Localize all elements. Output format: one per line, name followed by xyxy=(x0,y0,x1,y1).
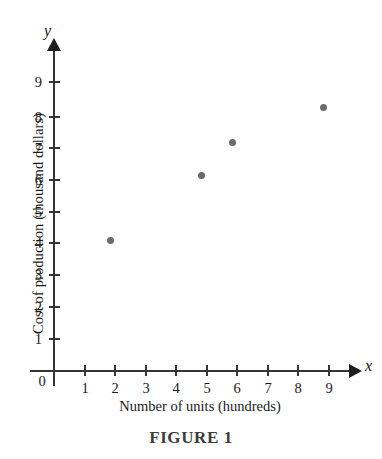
y-tick-7 xyxy=(49,147,60,149)
x-axis-line xyxy=(30,370,355,372)
x-tick-label-9: 9 xyxy=(321,381,337,396)
x-tick-label-8: 8 xyxy=(290,381,306,396)
y-tick-3 xyxy=(49,274,60,276)
x-tick-label-1: 1 xyxy=(77,381,93,396)
y-tick-4 xyxy=(49,242,60,244)
x-tick-5 xyxy=(206,365,208,376)
y-tick-2 xyxy=(49,306,60,308)
x-tick-label-6: 6 xyxy=(229,381,245,396)
x-tick-label-2: 2 xyxy=(107,381,123,396)
data-point xyxy=(107,237,114,244)
x-tick-4 xyxy=(175,365,177,376)
data-point xyxy=(320,104,327,111)
y-tick-1 xyxy=(49,338,60,340)
x-tick-6 xyxy=(236,365,238,376)
y-axis-label: Cost of production (thousand dollars) xyxy=(30,89,47,359)
x-tick-label-5: 5 xyxy=(199,381,215,396)
figure-1-scatter-plot: Cost of production (thousand dollars) y … xyxy=(0,0,382,459)
data-point xyxy=(198,172,205,179)
y-tick-label-8: 8 xyxy=(26,110,42,125)
figure-caption: FIGURE 1 xyxy=(41,428,341,448)
x-tick-9 xyxy=(328,365,330,376)
x-tick-1 xyxy=(84,365,86,376)
y-tick-6 xyxy=(49,179,60,181)
y-axis-letter: y xyxy=(44,22,51,40)
y-tick-label-1: 1 xyxy=(26,332,42,347)
x-axis-arrow-icon xyxy=(349,364,362,378)
y-tick-label-7: 7 xyxy=(26,141,42,156)
x-tick-7 xyxy=(267,365,269,376)
y-tick-8 xyxy=(49,116,60,118)
y-tick-label-3: 3 xyxy=(26,268,42,283)
y-tick-label-2: 2 xyxy=(26,300,42,315)
x-tick-label-4: 4 xyxy=(168,381,184,396)
y-tick-label-5: 5 xyxy=(26,205,42,220)
x-tick-8 xyxy=(297,365,299,376)
y-tick-9 xyxy=(49,81,60,83)
x-tick-label-3: 3 xyxy=(138,381,154,396)
x-axis-letter: x xyxy=(365,357,372,375)
origin-label: 0 xyxy=(34,373,50,390)
x-tick-3 xyxy=(145,365,147,376)
y-tick-label-6: 6 xyxy=(26,173,42,188)
y-tick-label-9: 9 xyxy=(26,75,42,90)
y-tick-label-4: 4 xyxy=(26,236,42,251)
data-point xyxy=(229,139,236,146)
x-tick-label-7: 7 xyxy=(260,381,276,396)
x-tick-2 xyxy=(114,365,116,376)
x-axis-label: Number of units (hundreds) xyxy=(40,398,360,415)
y-axis-line xyxy=(53,46,55,386)
y-tick-5 xyxy=(49,211,60,213)
